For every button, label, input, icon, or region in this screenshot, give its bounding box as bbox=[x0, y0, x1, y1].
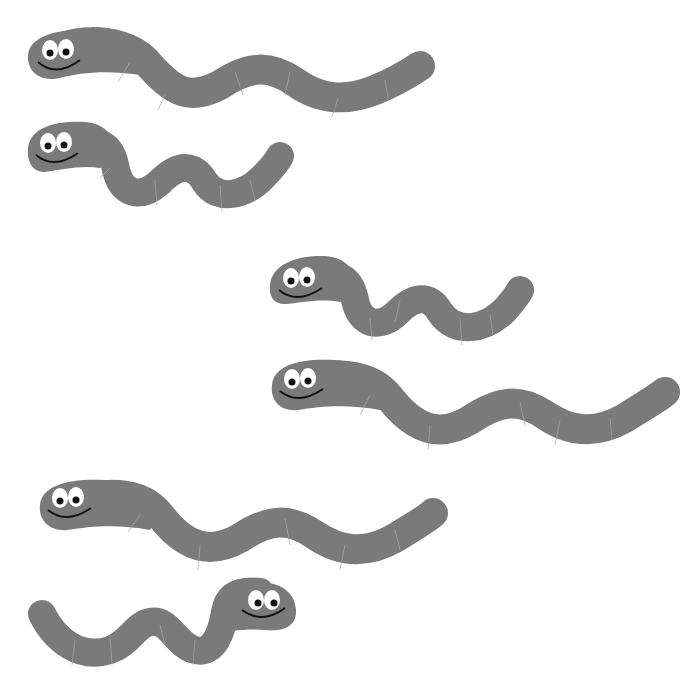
worm-5 bbox=[40, 480, 433, 550]
worm-1 bbox=[28, 30, 424, 98]
worms-illustration bbox=[0, 0, 688, 693]
worm-6 bbox=[42, 582, 296, 653]
worm-2 bbox=[28, 122, 280, 194]
worm-3 bbox=[270, 256, 520, 327]
worm-4 bbox=[272, 360, 665, 430]
